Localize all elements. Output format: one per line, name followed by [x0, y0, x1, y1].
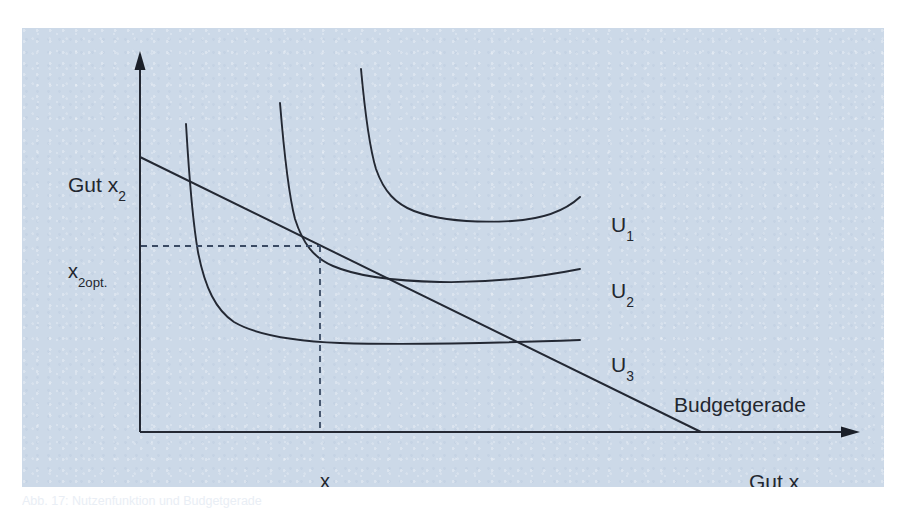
curve-label-u1-subscript: 1	[626, 228, 634, 244]
y-axis-title: Gut x2	[68, 174, 126, 195]
curve-label-u3: U3	[611, 354, 634, 375]
curve-label-u2-text: U	[611, 279, 626, 302]
budget-line-label: Budgetgerade	[674, 394, 806, 415]
y-axis-tick-label: x2opt.	[68, 261, 107, 281]
x-axis-tick-label: x1opt.	[320, 471, 359, 487]
x-axis-title-text: Gut x	[749, 470, 799, 487]
curve-label-u2-subscript: 2	[626, 294, 634, 310]
x-axis-arrow-icon	[841, 427, 860, 438]
y-axis-tick-label-subscript: 2opt.	[78, 275, 107, 290]
figure-root: Gut x2 x2opt. x1opt. Gut x1 U1 U2 U3 Bud…	[0, 0, 902, 509]
x-axis-tick-label-text: x	[320, 470, 330, 487]
curve-label-u1: U1	[611, 214, 634, 235]
chart-panel: Gut x2 x2opt. x1opt. Gut x1 U1 U2 U3 Bud…	[22, 28, 884, 487]
y-axis-tick-label-text: x	[68, 260, 78, 282]
chart-drawing	[22, 28, 884, 487]
figure-caption: Abb. 17: Nutzenfunktion und Budgetgerade	[22, 494, 722, 509]
y-axis-title-subscript: 2	[118, 188, 126, 204]
indifference-curve-u1	[361, 69, 580, 222]
y-axis-arrow-icon	[135, 51, 146, 70]
curve-label-u3-text: U	[611, 353, 626, 376]
indifference-curve-u2	[280, 103, 580, 282]
indifference-curve-u3	[186, 124, 580, 344]
y-axis-title-text: Gut x	[68, 173, 118, 196]
curve-label-u2: U2	[611, 280, 634, 301]
curve-label-u1-text: U	[611, 213, 626, 236]
curve-label-u3-subscript: 3	[626, 368, 634, 384]
x-axis-title: Gut x1	[749, 471, 807, 487]
x-axis-tick-label-subscript: 1opt.	[330, 485, 359, 487]
x-axis-title-subscript: 1	[799, 485, 807, 487]
